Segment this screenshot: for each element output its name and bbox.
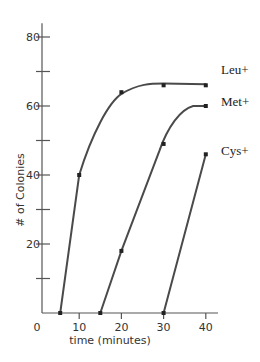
y-axis-title: # of Colonies xyxy=(14,153,27,227)
series-line-cys xyxy=(164,154,206,313)
series-line-leu xyxy=(60,84,206,313)
data-point-leu xyxy=(119,90,123,94)
labels-group: time (minutes)# of ColoniesLeu+Met+Cys+ xyxy=(14,62,249,347)
data-point-met xyxy=(98,311,102,315)
data-point-leu xyxy=(77,173,81,177)
x-tick-label: 40 xyxy=(199,321,213,334)
data-point-cys xyxy=(162,311,166,315)
series-label-cys: Cys+ xyxy=(221,143,249,158)
axes: 20406080010203040 xyxy=(26,23,218,334)
y-tick-label: 40 xyxy=(26,169,40,182)
x-tick-label: 20 xyxy=(114,321,128,334)
x-axis-title: time (minutes) xyxy=(69,334,150,347)
series-line-met xyxy=(100,106,206,313)
data-point-leu xyxy=(204,83,208,87)
series-group xyxy=(58,83,208,315)
data-point-cys xyxy=(204,152,208,156)
x-tick-label: 10 xyxy=(72,321,86,334)
data-point-met xyxy=(162,142,166,146)
x-tick-label: 0 xyxy=(34,321,41,334)
data-point-met xyxy=(204,104,208,108)
y-tick-label: 20 xyxy=(26,238,40,251)
series-label-leu: Leu+ xyxy=(221,62,249,77)
colony-growth-chart: 20406080010203040 time (minutes)# of Col… xyxy=(0,0,260,362)
data-point-leu xyxy=(58,311,62,315)
y-tick-label: 80 xyxy=(26,31,40,44)
y-tick-label: 60 xyxy=(26,100,40,113)
series-label-met: Met+ xyxy=(221,94,249,109)
data-point-leu xyxy=(162,83,166,87)
x-tick-label: 30 xyxy=(157,321,171,334)
data-point-met xyxy=(119,249,123,253)
